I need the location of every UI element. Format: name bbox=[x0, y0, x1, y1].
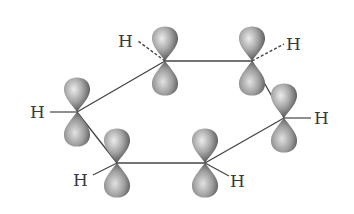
bond-c1-c2 bbox=[77, 61, 165, 112]
h-label-c3: H bbox=[286, 34, 301, 54]
h-label-c2: H bbox=[118, 31, 133, 51]
h-label-c1: H bbox=[30, 102, 45, 122]
h-label-c4: H bbox=[314, 108, 329, 128]
h-label-c5: H bbox=[230, 171, 245, 191]
h-label-c6: H bbox=[73, 170, 88, 190]
orbital-diagram: H H H H H H bbox=[0, 0, 354, 214]
